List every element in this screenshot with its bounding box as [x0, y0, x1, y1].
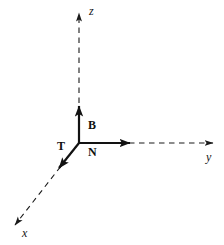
- frenet-frame-diagram: z y x B N T: [0, 0, 224, 245]
- vector-label-t: T: [57, 140, 65, 152]
- diagram-canvas: [0, 0, 224, 245]
- vector-label-n: N: [88, 146, 97, 158]
- axis-label-y: y: [206, 151, 211, 163]
- axis-label-x: x: [22, 227, 27, 239]
- axis-label-z: z: [89, 5, 94, 17]
- vector-label-b: B: [88, 119, 96, 131]
- axes-group: [15, 13, 213, 225]
